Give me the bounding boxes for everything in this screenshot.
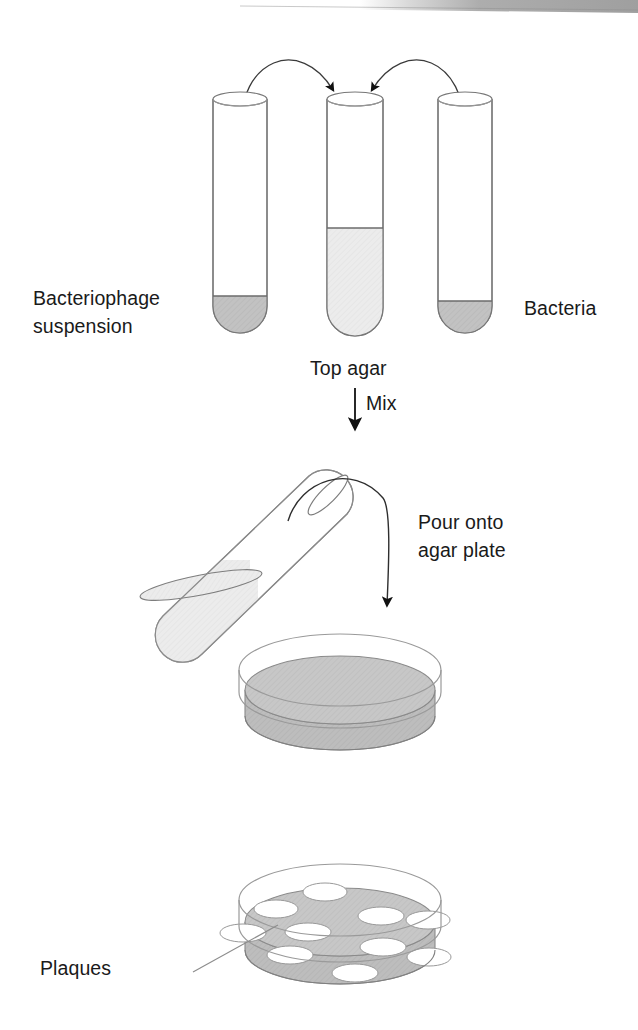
figure-root: Bacteriophage suspension Bacteria Top ag…: [0, 0, 638, 1030]
stage-agar-plate: [239, 634, 441, 750]
plaque: [360, 938, 406, 956]
plaque: [303, 883, 347, 901]
plaque: [332, 964, 378, 982]
plaque: [267, 946, 313, 964]
scan-edge-artifact: [240, 0, 638, 13]
test-tube-top-agar: [322, 92, 388, 346]
label-plaques: Plaques: [40, 957, 111, 979]
plaque: [254, 900, 298, 918]
plaque: [406, 911, 450, 929]
plaque: [358, 907, 404, 925]
test-tube-bacteria: [433, 92, 497, 347]
test-tube-bacteriophage: [208, 92, 272, 344]
label-bacteria: Bacteria: [524, 297, 596, 319]
stage-three-tubes: Bacteriophage suspension Bacteria Top ag…: [33, 60, 596, 379]
label-mix: Mix: [366, 392, 397, 414]
plaque-assay-diagram: Bacteriophage suspension Bacteria Top ag…: [0, 0, 638, 1030]
mix-step: Mix: [355, 388, 397, 428]
label-pour-onto-line1: Pour onto: [418, 511, 504, 533]
label-bacteriophage-suspension-line2: suspension: [33, 315, 133, 337]
stage-plate-with-plaques: Plaques: [40, 864, 451, 984]
plaque: [220, 924, 266, 942]
label-bacteriophage-suspension-line1: Bacteriophage: [33, 287, 160, 309]
agar-surface: [245, 656, 435, 724]
label-pour-onto-line2: agar plate: [418, 539, 506, 561]
label-top-agar: Top agar: [310, 357, 387, 379]
